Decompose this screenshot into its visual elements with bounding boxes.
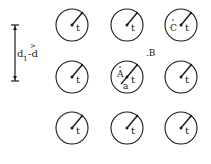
radius-label: t	[185, 74, 189, 85]
circle-3: tC	[165, 9, 197, 41]
radius-label: t	[76, 74, 80, 85]
radius-label: t	[185, 22, 189, 33]
circle-9: t	[165, 112, 197, 144]
circle-2: t	[111, 9, 143, 41]
dimension-rhs: -d	[28, 48, 38, 59]
point-c-label: C	[170, 23, 177, 33]
circle-8: t	[111, 112, 143, 144]
segment-a-label: a	[123, 81, 129, 91]
radius-label: t	[185, 125, 189, 136]
radius-label: t	[131, 74, 135, 85]
circle-4: t	[56, 61, 88, 93]
circle-grid-diagram: d 1 > -d tttCttAatttt .B	[0, 0, 211, 164]
radius-label: t	[131, 22, 135, 33]
circle-6: t	[165, 61, 197, 93]
dimension-sub: 1	[23, 55, 27, 63]
circles-group: tttCttAatttt	[56, 9, 197, 144]
circle-7: t	[56, 112, 88, 144]
radius-label: t	[131, 125, 135, 136]
circle-1: t	[56, 9, 88, 41]
point-b-label: .B	[146, 48, 156, 58]
radius-label: t	[76, 125, 80, 136]
circle-5: tAa	[111, 61, 143, 93]
radius-label: t	[76, 22, 80, 33]
point-a-label: A	[116, 69, 124, 79]
